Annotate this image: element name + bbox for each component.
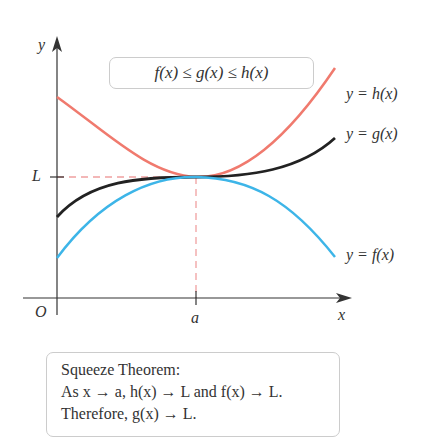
theorem-line2: Therefore, g(x) → L. [61,403,329,425]
theorem-title: Squeeze Theorem: [61,359,329,381]
x-axis-label: x [338,306,345,324]
origin-label: O [35,303,47,321]
theorem-line1: As x → a, h(x) → L and f(x) → L. [61,381,329,403]
label-g: y = g(x) [346,125,398,143]
label-h: y = h(x) [346,85,398,103]
point-a-label: a [191,309,199,327]
inequality-box: f(x) ≤ g(x) ≤ h(x) [109,57,314,89]
theorem-box: Squeeze Theorem: As x → a, h(x) → L and … [46,352,340,437]
label-f: y = f(x) [346,246,394,264]
y-axis-label: y [38,36,45,54]
limit-label: L [32,167,41,185]
